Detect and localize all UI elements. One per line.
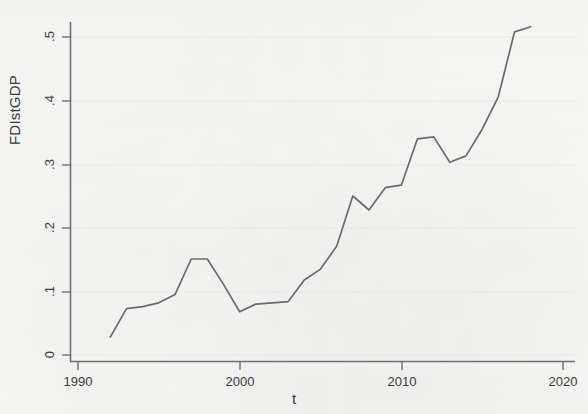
axis-lines	[70, 22, 575, 362]
y-tick-label-2: .2	[42, 219, 57, 237]
x-tick-label-2000: 2000	[217, 374, 263, 389]
y-tick-label-4: .4	[42, 92, 57, 110]
x-tick-label-1990: 1990	[55, 374, 101, 389]
line-chart	[0, 0, 588, 414]
x-axis-ticks	[78, 361, 563, 370]
x-tick-label-2010: 2010	[379, 374, 425, 389]
y-tick-label-5: .5	[42, 28, 57, 46]
x-tick-label-2020: 2020	[540, 374, 586, 389]
y-axis-ticks	[62, 37, 70, 355]
y-axis-title: FDIstGDP	[6, 75, 23, 145]
gridlines	[70, 37, 575, 355]
x-axis-title: t	[0, 390, 588, 407]
y-tick-label-0: 0	[42, 346, 57, 364]
y-tick-label-1: .1	[42, 283, 57, 301]
y-tick-label-3: .3	[42, 156, 57, 174]
data-series-line	[110, 27, 530, 337]
